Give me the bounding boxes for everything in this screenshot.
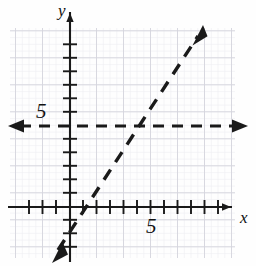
- grid-major: [10, 28, 235, 258]
- x-axis-label: x: [240, 209, 248, 226]
- graph-figure: y x 5 5: [0, 0, 256, 266]
- x-axis-tick-label-5: 5: [146, 216, 157, 237]
- axis-y: [66, 12, 73, 262]
- y-axis-arrow-icon: [66, 13, 73, 22]
- left-arrowhead-icon: [8, 120, 24, 133]
- grid-minor: [10, 28, 235, 258]
- x-axis-arrow-icon: [222, 203, 231, 211]
- right-arrowhead-icon: [232, 120, 248, 133]
- y-axis-tick-label-5: 5: [36, 101, 47, 122]
- coordinate-plane: [0, 0, 256, 266]
- upper-arrowhead-icon: [193, 25, 208, 46]
- y-axis-label: y: [58, 2, 66, 19]
